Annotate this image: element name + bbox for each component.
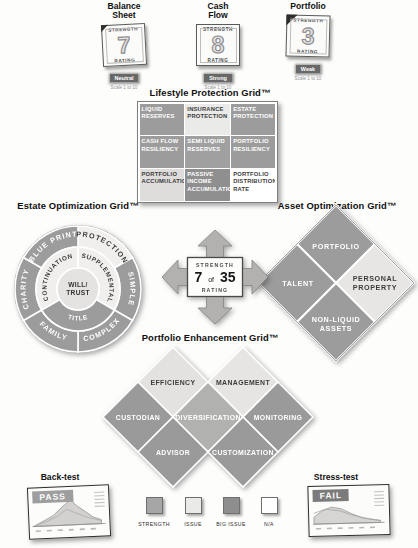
scorecard-balance-sheet: Balance Sheet STRENGTH 7 RATING Neutral … [80, 2, 168, 90]
card-rating-value: 8 [212, 34, 225, 57]
decline-curve [314, 506, 381, 524]
rating-score-of: of [208, 276, 214, 283]
rating-box-rating-label: RATING [202, 287, 229, 293]
card-rating-label: RATING [114, 57, 135, 63]
backtest-card: PASS [27, 484, 111, 540]
grid-cell: PORTFOLIO ACCUMULATION [140, 169, 184, 200]
portfolio-enhancement-grid: EFFICIENCY MANAGEMENT CUSTODIAN DIVERSIF… [98, 347, 318, 487]
asset-label-portfolio: PORTFOLIO [312, 242, 359, 251]
scorecard-cash-flow: Cash Flow STRENGTH 8 RATING Strong Scale… [174, 2, 262, 90]
corner-fold-icon [286, 14, 297, 25]
rating-box-score: 7 of 35 [194, 268, 235, 285]
strength-card: STRENGTH 7 RATING [101, 23, 147, 67]
scorecard-portfolio: Portfolio STRENGTH 3 RATING Weak Scale 1… [264, 2, 352, 81]
na-swatch [261, 497, 278, 514]
rating-box-strength-label: STRENGTH [196, 262, 234, 268]
axis-ticks [374, 491, 384, 506]
scorecard-title-line1: Portfolio [264, 2, 352, 11]
estate-center-label: WILL/ TRUST [66, 281, 89, 296]
asset-label-talent: TALENT [282, 279, 313, 288]
estate-grid-title: Estate Optimization Grid™ [2, 200, 154, 211]
grid-cell: PORTFOLIO DISTRIBUTION RATE [231, 169, 275, 200]
asset-label-line1: NON-LIQUID [312, 315, 361, 324]
estate-center-line1: WILL/ [68, 281, 87, 288]
grid-cell: SEMI LIQUID RESERVES [185, 136, 229, 167]
grid-cell: PASSIVE INCOME ACCUMULATION [185, 169, 229, 200]
axis-ticks [94, 491, 105, 507]
card-scale-note: Scale 1 to 10 [264, 76, 352, 81]
lifestyle-grid-title: Lifestyle Protection Grid™ [130, 87, 290, 98]
scorecard-title: Balance Sheet [80, 2, 168, 20]
strength-rating-arrows: STRENGTH 7 of 35 RATING [160, 229, 270, 329]
enh-label-custodian: CUSTODIAN [116, 414, 160, 421]
card-rating-label: RATING [208, 58, 229, 63]
asset-label-personal-property: PERSONAL PROPERTY [353, 274, 398, 292]
card-rating-label: RATING [297, 49, 318, 55]
rating-score-total: 35 [220, 269, 236, 285]
enhancement-grid-title: Portfolio Enhancement Grid™ [130, 332, 290, 343]
grid-cell: CASH FLOW RESILIENCY [140, 136, 184, 167]
grid-cell: INSURANCE PROTECTION [185, 104, 229, 135]
backtest-title: Back-test [10, 472, 110, 482]
lifestyle-protection-grid: LIQUID RESERVES INSURANCE PROTECTION EST… [137, 101, 278, 203]
enh-label-diversification: DIVERSIFICATION [175, 414, 241, 421]
asset-label-line1: PERSONAL [353, 274, 398, 283]
card-rating-value: 3 [301, 24, 314, 47]
enh-label-efficiency: EFFICIENCY [151, 379, 196, 386]
scorecard-title: Portfolio [264, 2, 352, 11]
corner-fold-icon [101, 25, 108, 32]
axis-ticks [316, 526, 375, 529]
axis-ticks [36, 528, 96, 532]
estate-center-line2: TRUST [66, 289, 89, 296]
enh-label-management: MANAGEMENT [216, 379, 271, 386]
card-rating-value: 7 [117, 33, 131, 57]
wealth-diagnostic-diagram: Balance Sheet STRENGTH 7 RATING Neutral … [0, 0, 418, 548]
issue-swatch [185, 497, 202, 514]
big-issue-swatch [223, 497, 240, 514]
legend-item-na: N/A [241, 497, 297, 527]
enh-label-customization: CUSTOMIZATION [212, 449, 274, 456]
strength-card: STRENGTH 8 RATING [196, 24, 240, 66]
strength-swatch [146, 497, 163, 514]
card-verdict: Neutral [110, 74, 139, 82]
rating-score-value: 7 [194, 269, 202, 285]
enh-label-advisor: ADVISOR [156, 449, 190, 456]
asset-label-line2: ASSETS [320, 324, 352, 333]
scorecard-title-line2: Sheet [80, 11, 168, 20]
grid-cell: PORTFOLIO RESILIENCY [231, 136, 275, 167]
stresstest-card: FAIL [307, 484, 390, 537]
legend-label: N/A [241, 521, 297, 527]
grid-cell: LIQUID RESERVES [140, 104, 184, 135]
scorecard-title: Cash Flow [174, 2, 262, 20]
scorecard-title-line2: Flow [174, 11, 262, 20]
pass-badge: PASS [32, 490, 73, 504]
grid-cell: ESTATE PROTECTION [231, 104, 275, 135]
stresstest-title: Stress-test [286, 472, 386, 482]
asset-label-line2: PROPERTY [353, 283, 397, 292]
card-verdict: Weak [296, 65, 320, 73]
strength-card: STRENGTH 3 RATING [285, 14, 330, 57]
card-verdict: Strong [204, 74, 232, 82]
fail-badge: FAIL [312, 489, 349, 502]
enh-label-monitoring: MONITORING [254, 414, 303, 421]
